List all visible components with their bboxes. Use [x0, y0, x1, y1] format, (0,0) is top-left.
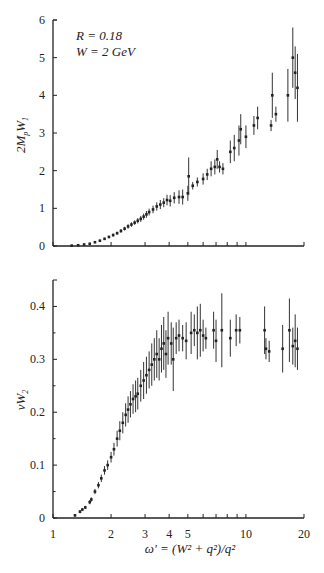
svg-text:3: 3 — [142, 527, 148, 541]
svg-text:5: 5 — [39, 51, 45, 65]
svg-text:0: 0 — [39, 239, 45, 253]
svg-text:3: 3 — [39, 126, 45, 140]
annotation-w: W = 2 GeV — [76, 44, 137, 59]
top-y-axis-label: 2MpW1 — [13, 117, 30, 153]
bottom-y-axis-label: νW2 — [13, 390, 30, 411]
top-data-points — [70, 28, 298, 247]
svg-text:νW2: νW2 — [13, 390, 30, 411]
bottom-data-points — [74, 293, 299, 516]
svg-text:0.4: 0.4 — [30, 299, 45, 313]
top-y-ticks: 0123456 — [39, 13, 57, 253]
top-panel: 0123456 R = 0.18 W = 2 GeV 2MpW1 — [13, 13, 304, 253]
annotation-r: R = 0.18 — [75, 28, 122, 43]
svg-text:0.1: 0.1 — [30, 458, 45, 472]
svg-text:2MpW1: 2MpW1 — [13, 117, 30, 153]
svg-text:10: 10 — [240, 527, 252, 541]
x-axis-label: ω' = (W² + q²)/q² — [145, 541, 236, 556]
svg-text:20: 20 — [298, 527, 310, 541]
svg-text:2: 2 — [39, 164, 45, 178]
svg-text:1: 1 — [50, 527, 56, 541]
svg-text:5: 5 — [185, 527, 191, 541]
svg-text:4: 4 — [166, 527, 172, 541]
svg-text:2: 2 — [108, 527, 114, 541]
svg-text:6: 6 — [39, 13, 45, 27]
structure-function-chart: 0123456 R = 0.18 W = 2 GeV 2MpW1 00.10.2… — [0, 0, 324, 573]
svg-text:1: 1 — [39, 201, 45, 215]
svg-text:4: 4 — [39, 88, 45, 102]
svg-text:0.2: 0.2 — [30, 405, 45, 419]
svg-text:0.3: 0.3 — [30, 352, 45, 366]
bottom-panel: 00.10.20.30.4 123451020 νW2 ω' = (W² + q… — [13, 280, 310, 556]
svg-text:0: 0 — [39, 511, 45, 525]
